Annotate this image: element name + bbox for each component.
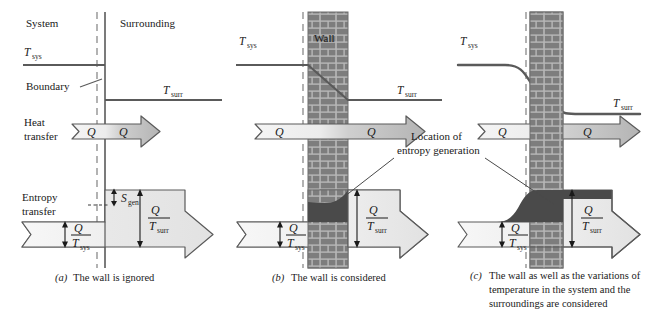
panel-a-sgen-subscript: gen (128, 198, 139, 207)
entropy-generation-annotation-line2: entropy generation (397, 144, 480, 156)
panel-c-qtsurr-numerator: Q (584, 203, 593, 217)
panel-a-heat-transfer-line2: transfer (24, 130, 58, 142)
panel-a-tsurr-subscript: surr (171, 90, 183, 99)
panel-a-q-right-label: Q (119, 125, 128, 139)
panel-a-entropy-transfer-line2: transfer (22, 205, 56, 217)
panel-a-surrounding-label: Surrounding (120, 17, 176, 29)
panel-a-tsys-subscript: sys (32, 52, 42, 61)
panel-b-wall-label: Wall (314, 32, 335, 44)
panel-c-qtsys-numerator: Q (511, 221, 520, 235)
panel-c-caption-line3: surroundings are considered (489, 298, 608, 309)
panel-b-qtsys-numerator: Q (289, 221, 298, 235)
panel-a-sgen-symbol: S (121, 192, 127, 204)
panel-a-qtsurr-numerator: Q (151, 203, 160, 217)
panel-c-qtsys-denominator-sub: sys (517, 243, 527, 252)
panel-c-caption-tag: (c) (470, 270, 482, 282)
panel-c-qtsurr-denominator-sub: surr (590, 226, 602, 235)
panel-c-q-right-label: Q (583, 125, 592, 139)
panel-c-q-left-label: Q (498, 125, 507, 139)
panel-c-tsys-subscript: sys (468, 41, 478, 50)
panel-a-qtsurr-denominator-sub: surr (157, 226, 169, 235)
panel-a-heat-transfer-line1: Heat (24, 116, 45, 128)
entropy-generation-annotation-line1: Location of (411, 130, 462, 142)
panel-b-qtsys-denominator-sub: sys (295, 243, 305, 252)
panel-a-qtsys-numerator: Q (74, 221, 83, 235)
panel-a-entropy-transfer-line1: Entropy (22, 191, 58, 203)
panel-b-tsys-subscript: sys (247, 41, 257, 50)
panel-b-qtsurr-denominator-sub: surr (375, 226, 387, 235)
panel-a-q-left-label: Q (87, 125, 96, 139)
panel-b-q-right-label: Q (367, 125, 376, 139)
panel-a-caption-tag: (a) (55, 272, 68, 284)
panel-b-caption-text: The wall is considered (291, 272, 387, 283)
panel-a-qtsys-denominator-sub: sys (80, 243, 90, 252)
panel-b-qtsurr-numerator: Q (369, 203, 378, 217)
panel-c-caption-line2: temperature in the system and the (489, 284, 631, 295)
panel-c-tsurr-subscript: surr (621, 103, 633, 112)
panel-a-system-label: System (26, 17, 59, 29)
panel-c-wall-overlay (530, 12, 563, 268)
panel-b-q-left-label: Q (275, 125, 284, 139)
panel-c-caption-line1: The wall as well as the variations of (489, 270, 641, 281)
panel-a-boundary-label: Boundary (26, 80, 70, 92)
panel-b-tsurr-subscript: surr (405, 90, 417, 99)
panel-b-caption-tag: (b) (272, 272, 285, 284)
panel-a-caption-text: The wall is ignored (73, 272, 155, 283)
figure-container: System Surrounding T sys Boundary T surr… (0, 0, 668, 317)
